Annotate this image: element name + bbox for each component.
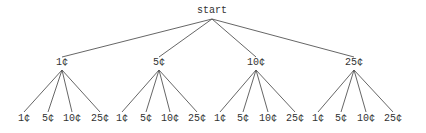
level1-node-5c: 5¢ [153,58,165,68]
leaf-node: 5¢ [335,114,347,124]
tree-edge [62,70,100,112]
level1-node-10c: 10¢ [247,58,265,68]
tree-edge [318,70,354,112]
tree-edge [62,19,212,57]
tree-edge [212,19,354,57]
tree-edge [62,70,72,112]
leaf-node: 1¢ [214,114,226,124]
leaf-node: 25¢ [384,114,402,124]
level1-node-25c: 25¢ [345,58,363,68]
leaf-node: 1¢ [312,114,324,124]
leaf-node: 25¢ [91,114,109,124]
leaf-node: 5¢ [42,114,54,124]
leaf-node: 25¢ [286,114,304,124]
leaf-node: 10¢ [161,114,179,124]
leaf-node: 5¢ [237,114,249,124]
leaf-node: 5¢ [140,114,152,124]
tree-edge [243,70,256,112]
leaf-node: 1¢ [116,114,128,124]
coin-decision-tree: start 1¢ 5¢ 10¢ 25¢ 1¢ 5¢ 10¢ 25¢ 1¢ 5¢ … [0,0,426,133]
tree-edge [24,70,62,112]
tree-edge [48,70,62,112]
leaf-node: 10¢ [357,114,375,124]
leaf-node: 25¢ [188,114,206,124]
tree-edge [341,70,354,112]
leaf-node: 1¢ [18,114,30,124]
tree-edge [220,70,256,112]
tree-edge [122,70,159,112]
tree-edge [146,70,159,112]
level1-node-1c: 1¢ [56,58,68,68]
leaf-node: 10¢ [259,114,277,124]
root-node-start: start [197,6,227,16]
leaf-node: 10¢ [63,114,81,124]
tree-edge [159,19,212,57]
